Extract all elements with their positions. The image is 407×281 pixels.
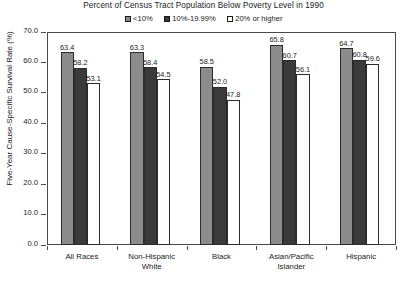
x-category-label-line: Non-Hispanic xyxy=(117,252,187,262)
legend-swatch-icon xyxy=(125,16,131,22)
x-category-label-line: Asian/Pacific xyxy=(256,252,326,262)
bar-value-label: 58.4 xyxy=(139,59,161,66)
legend-swatch-icon xyxy=(164,16,170,22)
bar-value-label: 54.5 xyxy=(152,71,174,78)
bar-value-label: 52.0 xyxy=(209,78,231,85)
legend-item-1: <10% xyxy=(125,15,153,23)
y-tick-label: 30.0 xyxy=(0,148,38,156)
bar xyxy=(74,68,87,245)
x-category-label-line: Black xyxy=(187,252,257,262)
x-category-label: All Races xyxy=(47,252,117,262)
y-tick-mark xyxy=(41,62,46,63)
x-category-label: Asian/PacificIslander xyxy=(256,252,326,271)
x-tick-mark xyxy=(187,246,188,250)
y-tick-mark xyxy=(41,184,46,185)
bar xyxy=(366,64,379,245)
x-category-label-line: Hispanic xyxy=(326,252,396,262)
y-tick-label: 60.0 xyxy=(0,57,38,65)
x-category-label-line: White xyxy=(117,262,187,272)
bar-value-label: 58.2 xyxy=(69,59,91,66)
bar-value-label: 65.8 xyxy=(266,36,288,43)
bar-value-label: 56.1 xyxy=(292,66,314,73)
chart-title: Percent of Census Tract Population Below… xyxy=(0,1,407,10)
x-tick-mark xyxy=(47,246,48,250)
bar xyxy=(61,52,74,245)
bar xyxy=(283,60,296,245)
bar xyxy=(296,74,309,245)
y-tick-label: 10.0 xyxy=(0,209,38,217)
bar-value-label: 59.6 xyxy=(362,55,384,62)
x-tick-mark xyxy=(117,246,118,250)
bar-chart: Percent of Census Tract Population Below… xyxy=(0,0,407,281)
x-tick-mark xyxy=(396,246,397,250)
x-tick-mark xyxy=(326,246,327,250)
x-category-label-line: Islander xyxy=(256,262,326,272)
y-tick-mark xyxy=(41,32,46,33)
x-category-label: Hispanic xyxy=(326,252,396,262)
bar xyxy=(270,45,283,245)
bar xyxy=(144,67,157,245)
bar-value-label: 63.3 xyxy=(126,44,148,51)
chart-legend: <10%10%-19.99%20% or higher xyxy=(0,15,407,23)
bar-value-label: 60.7 xyxy=(279,52,301,59)
y-tick-mark xyxy=(41,153,46,154)
legend-label: 20% or higher xyxy=(235,15,282,23)
y-tick-label: 0.0 xyxy=(0,240,38,248)
bar-value-label: 47.8 xyxy=(222,91,244,98)
x-category-label: Black xyxy=(187,252,257,262)
y-tick-label: 20.0 xyxy=(0,179,38,187)
x-category-label: Non-HispanicWhite xyxy=(117,252,187,271)
bar xyxy=(340,48,353,245)
bar xyxy=(213,87,226,245)
y-tick-label: 50.0 xyxy=(0,87,38,95)
y-tick-mark xyxy=(41,123,46,124)
bar xyxy=(200,67,213,245)
bar xyxy=(227,100,240,245)
legend-swatch-icon xyxy=(227,16,233,22)
bar xyxy=(130,52,143,245)
x-category-label-line: All Races xyxy=(47,252,117,262)
x-tick-mark xyxy=(256,246,257,250)
y-tick-mark xyxy=(41,92,46,93)
y-tick-mark xyxy=(41,214,46,215)
legend-label: <10% xyxy=(133,15,153,23)
legend-item-2: 10%-19.99% xyxy=(164,15,216,23)
bar-value-label: 53.1 xyxy=(83,75,105,82)
bar-value-label: 58.5 xyxy=(196,58,218,65)
bar xyxy=(87,83,100,245)
bar xyxy=(157,79,170,245)
legend-item-3: 20% or higher xyxy=(227,15,283,23)
bar-value-label: 64.7 xyxy=(335,40,357,47)
bar-value-label: 63.4 xyxy=(56,44,78,51)
y-tick-label: 40.0 xyxy=(0,118,38,126)
y-tick-mark xyxy=(41,245,46,246)
legend-label: 10%-19.99% xyxy=(172,15,215,23)
bar xyxy=(353,60,366,245)
y-tick-label: 70.0 xyxy=(0,27,38,35)
